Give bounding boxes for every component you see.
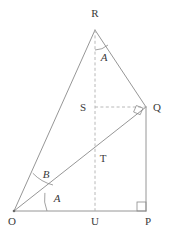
- angle-label-ROQ: B: [43, 168, 50, 180]
- right-angle-at-P: [137, 202, 146, 211]
- edge-RQ: [95, 30, 146, 107]
- vertex-label-P: P: [145, 215, 151, 227]
- arc-at-R: [95, 45, 108, 50]
- vertex-label-T: T: [100, 152, 107, 164]
- vertex-label-U: U: [91, 215, 99, 227]
- edge-OQ: [14, 107, 146, 211]
- vertex-dot-O: [13, 210, 16, 213]
- arc-QOP: [44, 193, 47, 211]
- angle-label-QOP: A: [53, 192, 61, 204]
- edge-OR: [14, 30, 95, 211]
- angle-label-at-R: A: [100, 51, 108, 63]
- vertex-label-Q: Q: [153, 101, 161, 113]
- geometry-canvas: R Q S T O U P A B A: [0, 0, 171, 234]
- vertex-label-R: R: [91, 7, 99, 19]
- vertex-label-S: S: [80, 101, 86, 113]
- vertex-label-O: O: [8, 215, 16, 227]
- geometry-figure: R Q S T O U P A B A: [0, 0, 171, 234]
